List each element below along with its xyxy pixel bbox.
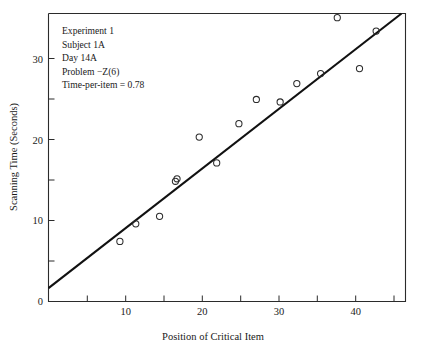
x-axis-title: Position of Critical Item <box>162 331 264 342</box>
chart-canvas: 0 10 20 30 10 20 30 40 Position of Criti… <box>0 0 426 352</box>
y-axis-title: Scanning Time (Seconds) <box>8 103 20 211</box>
annotation-line-day: Day 14A <box>62 52 97 63</box>
y-tick-label-0: 0 <box>38 296 43 307</box>
x-tick-label-10: 10 <box>120 306 131 317</box>
annotation-line-experiment: Experiment 1 <box>62 25 114 36</box>
y-tick-label-10: 10 <box>33 215 44 226</box>
scatter-plot-figure: 0 10 20 30 10 20 30 40 Position of Criti… <box>0 0 426 352</box>
annotation-line-subject: Subject 1A <box>62 39 105 50</box>
y-tick-label-20: 20 <box>33 135 44 146</box>
y-tick-label-30: 30 <box>33 54 44 65</box>
x-tick-label-20: 20 <box>197 306 208 317</box>
x-tick-label-30: 30 <box>274 306 285 317</box>
x-tick-label-40: 40 <box>350 306 361 317</box>
annotation-line-problem: Problem −Z(6) <box>62 66 119 78</box>
annotation-line-time-per-item: Time-per-item = 0.78 <box>62 79 145 90</box>
